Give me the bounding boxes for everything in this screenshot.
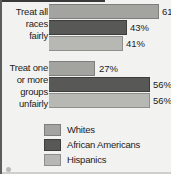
bar-value-label: 61% [162, 5, 171, 18]
bar-value-label: 41% [126, 37, 145, 50]
bar-value-label: 56% [153, 78, 171, 91]
legend: Whites African Americans Hispanics [44, 123, 171, 168]
bar-value-label: 27% [99, 62, 118, 75]
legend-label: Hispanics [67, 153, 106, 167]
bar-row: 27% [49, 61, 171, 76]
bar-row: 43% [49, 20, 171, 35]
legend-item-hispanics[interactable]: Hispanics [44, 153, 171, 167]
legend-swatch-icon [44, 124, 61, 136]
group-label-treat-all-races-fairly: Treat all races fairly [3, 6, 48, 42]
legend-swatch-icon [44, 154, 61, 166]
bar-row: 56% [49, 77, 171, 92]
bar-group-treat-all-races-fairly: Treat all races fairly 61% 43% 41% [0, 4, 171, 54]
bar-group-treat-one-or-more-groups-unfairly: Treat one or more groups unfairly 27% 56… [0, 61, 171, 112]
legend-label: African Americans [67, 138, 140, 152]
bar-chart: Treat all races fairly 61% 43% 41% Treat… [0, 0, 171, 174]
top-edge-rule [0, 0, 105, 2]
scan-speck [6, 167, 11, 172]
bar-value-label: 43% [130, 21, 149, 34]
legend-label: Whites [67, 123, 95, 137]
group-label-treat-one-or-more-groups-unfairly: Treat one or more groups unfairly [3, 62, 48, 110]
group-label-line: races [3, 18, 48, 30]
legend-item-african-americans[interactable]: African Americans [44, 138, 171, 152]
bar-african-americans[interactable] [49, 77, 150, 92]
bar-whites[interactable] [49, 61, 95, 76]
bar-row: 41% [49, 36, 171, 51]
group-label-line: Treat all [3, 6, 48, 18]
bar-value-label: 56% [153, 94, 171, 107]
bar-group-bars: 27% 56% 56% [49, 61, 171, 112]
bar-group-bars: 61% 43% 41% [49, 4, 171, 54]
group-label-line: groups [3, 86, 48, 98]
group-label-line: Treat one [3, 62, 48, 74]
bar-whites[interactable] [49, 4, 159, 19]
bar-hispanics[interactable] [49, 36, 123, 51]
group-label-line: fairly [3, 30, 48, 42]
group-label-line: or more [3, 74, 48, 86]
bar-hispanics[interactable] [49, 93, 150, 108]
bar-african-americans[interactable] [49, 20, 127, 35]
legend-swatch-icon [44, 139, 61, 151]
bar-row: 56% [49, 93, 171, 108]
bar-row: 61% [49, 4, 171, 19]
group-label-line: unfairly [3, 98, 48, 110]
legend-item-whites[interactable]: Whites [44, 123, 171, 137]
bottom-edge-rule [2, 172, 171, 174]
